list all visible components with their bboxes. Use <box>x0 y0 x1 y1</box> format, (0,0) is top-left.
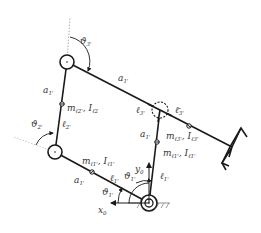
theta1-lower-arc <box>118 188 122 203</box>
joint-right-passive <box>148 102 172 122</box>
gripper-jaws <box>222 128 247 166</box>
label-x0: x0 <box>98 205 107 216</box>
com-marker-top-link <box>187 124 191 128</box>
label-l3: ℓ3' <box>136 105 145 116</box>
label-a1-top-link: a1' <box>118 73 128 84</box>
com-marker-lower-link <box>90 170 94 174</box>
label-l1-lower: ℓ1' <box>110 173 119 184</box>
label-m1-I1-right: mℓ1', Iℓ1' <box>163 148 195 159</box>
theta2-arc <box>36 133 53 145</box>
label-theta2: ϑ2' <box>31 119 42 130</box>
joint-left-middle <box>48 145 62 159</box>
label-l2: ℓ2' <box>62 119 71 130</box>
label-l3-bar: ℓ̄3' <box>175 105 184 116</box>
link-left <box>55 62 67 152</box>
label-m3-I3: mℓ3', Iℓ3' <box>166 131 198 142</box>
label-theta3: ϑ3' <box>80 36 91 47</box>
label-theta1-lower-b: ϑ1' <box>102 187 113 198</box>
label-m2-l2: mℓ2', Iℓ2 <box>67 103 98 114</box>
label-a1-lower: a1' <box>74 175 84 186</box>
label-a1-left-upper: a1' <box>43 85 53 96</box>
label-theta1-lower-a: ϑ1' <box>124 171 135 182</box>
label-l1-right: ℓ1' <box>160 171 169 182</box>
link-right <box>149 110 160 203</box>
label-a1-right: a1' <box>140 129 150 140</box>
label-m1-I1-lower: mℓ1', Iℓ1' <box>82 156 114 167</box>
com-marker-left-link <box>60 102 65 106</box>
com-marker-right-link <box>155 140 160 144</box>
label-y0: y0 <box>134 164 144 175</box>
manipulator-diagram: ϑ3' a1' a1' mℓ2', Iℓ2 ϑ2' ℓ2' ℓ3' ℓ̄3' a… <box>0 0 261 233</box>
joint-top-left <box>60 55 74 69</box>
